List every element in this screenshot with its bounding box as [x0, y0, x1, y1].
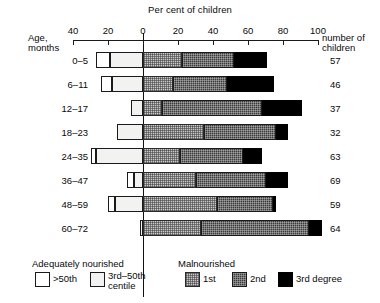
bar-segment [217, 196, 273, 212]
bar-row: 12–1737 [0, 98, 380, 122]
legend-label: 3rd–50thcentile [108, 271, 146, 291]
row-child-count: 59 [330, 197, 354, 213]
bar-segment [276, 124, 288, 140]
x-axis-tick-label: 40 [58, 25, 88, 36]
legend-label: >50th [53, 274, 77, 284]
row-child-count: 32 [330, 125, 354, 141]
x-axis-tick [248, 40, 249, 45]
bar-segment [134, 172, 143, 188]
bar-segment [110, 52, 143, 68]
bar-segment [143, 220, 201, 236]
x-axis-tick [283, 40, 284, 45]
bar-row: 18–2332 [0, 122, 380, 146]
row-child-count: 57 [330, 53, 354, 69]
legend-label-line1: 3rd degree [296, 274, 342, 284]
bar-segment [96, 148, 143, 164]
x-axis-tick-label: 100 [303, 25, 333, 36]
bar-row: 48–5959 [0, 194, 380, 218]
chart-title: Per cent of children [0, 4, 380, 15]
bar-segment [196, 172, 266, 188]
bar-segment [117, 124, 143, 140]
bar-segment [108, 196, 115, 212]
bar-row: 60–7264 [0, 218, 380, 242]
bar-segment [112, 76, 144, 92]
bar-segment [143, 76, 173, 92]
row-age-label: 48–59 [22, 197, 88, 213]
x-axis-tick-label: 20 [163, 25, 193, 36]
bar-segment [204, 124, 276, 140]
legend-left-title: Adequately nourished [32, 258, 124, 269]
bar-segment [234, 52, 267, 68]
bar-segment [182, 52, 235, 68]
nutrition-chart: Per cent of children Age, months number … [0, 0, 380, 303]
legend-label: 2nd [250, 274, 266, 284]
bar-segment [143, 52, 182, 68]
bar-segment [243, 148, 262, 164]
legend-swatch [232, 272, 247, 287]
x-axis-tick [108, 40, 109, 45]
x-axis-tick [178, 40, 179, 45]
legend-label: 3rd degree [296, 274, 342, 284]
bar-row: 24–3563 [0, 146, 380, 170]
row-child-count: 69 [330, 173, 354, 189]
x-axis-tick-label: 20 [93, 25, 123, 36]
legend-label-line2: centile [108, 281, 146, 291]
bar-segment [115, 196, 143, 212]
bar-segment [227, 76, 274, 92]
x-axis-tick-label: 80 [268, 25, 298, 36]
row-age-label: 6–11 [22, 77, 88, 93]
bar-segment [143, 124, 204, 140]
legend-swatch [278, 272, 293, 287]
bar-segment [201, 220, 310, 236]
bar-segment [262, 100, 302, 116]
row-child-count: 46 [330, 77, 354, 93]
row-age-label: 60–72 [22, 221, 88, 237]
row-age-label: 36–47 [22, 173, 88, 189]
legend-label-line1: 1st [203, 274, 216, 284]
bar-row: 36–4769 [0, 170, 380, 194]
row-age-label: 0–5 [22, 53, 88, 69]
legend-right-title: Malnourished [178, 258, 235, 269]
legend-label: 1st [203, 274, 216, 284]
row-age-label: 12–17 [22, 101, 88, 117]
x-axis-tick [213, 40, 214, 45]
legend-label-line1: 2nd [250, 274, 266, 284]
bar-segment [143, 148, 180, 164]
bar-row: 6–1146 [0, 74, 380, 98]
bar-segment [273, 196, 277, 212]
bar-segment [91, 148, 96, 164]
x-axis-tick [318, 40, 319, 45]
bar-segment [127, 172, 134, 188]
bar-segment [96, 52, 110, 68]
bar-row: 0–557 [0, 50, 380, 74]
row-child-count: 64 [330, 221, 354, 237]
legend-swatch [90, 272, 105, 287]
row-child-count: 63 [330, 149, 354, 165]
x-axis-tick [73, 40, 74, 45]
bar-segment [101, 76, 112, 92]
bar-segment [309, 220, 321, 236]
row-age-label: 24–35 [22, 149, 88, 165]
bar-segment [143, 100, 162, 116]
x-axis-tick-label: 40 [198, 25, 228, 36]
bar-segment [143, 172, 196, 188]
legend-swatch [185, 272, 200, 287]
bar-segment [143, 196, 217, 212]
row-child-count: 37 [330, 101, 354, 117]
bar-segment [173, 76, 227, 92]
legend-swatch [35, 272, 50, 287]
legend-label-line1: >50th [53, 274, 77, 284]
x-axis-tick-label: 60 [233, 25, 263, 36]
row-age-label: 18–23 [22, 125, 88, 141]
x-axis-tick-label: 0 [128, 25, 158, 36]
bar-segment [180, 148, 243, 164]
x-axis-tick [143, 40, 144, 45]
bar-segment [162, 100, 262, 116]
bar-segment [266, 172, 289, 188]
bar-segment [131, 100, 143, 116]
